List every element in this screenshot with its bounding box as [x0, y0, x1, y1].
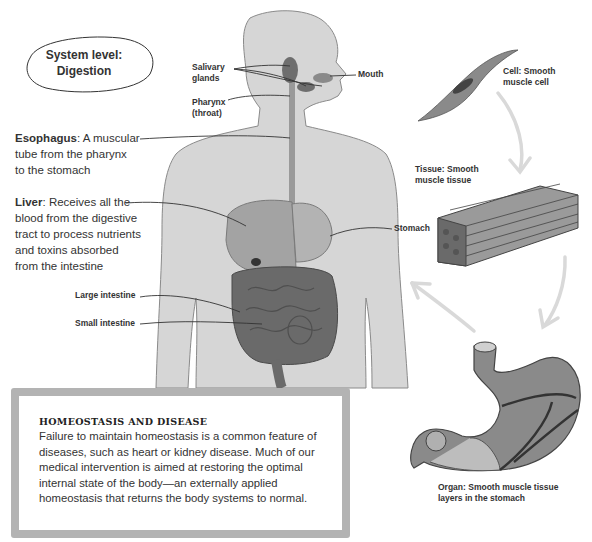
label-cell: Cell: Smooth muscle cell [503, 66, 555, 88]
info-box-title: HOMEOSTASIS AND DISEASE [39, 416, 207, 427]
pharynx-line1: Pharynx [192, 97, 226, 108]
liver-line3: tract to process nutrients [15, 226, 141, 242]
label-large-intestine: Large intestine [75, 290, 135, 301]
stomach-organ-drawing [411, 342, 580, 471]
organ-line1: Organ: Smooth muscle tissue [438, 482, 558, 493]
liver-line5: from the intestine [15, 258, 141, 274]
gallbladder-shape [251, 258, 261, 266]
label-mouth: Mouth [358, 69, 384, 80]
label-salivary-glands: Salivary glands [192, 62, 225, 84]
label-small-intestine: Small intestine [75, 318, 135, 329]
cell-line2: muscle cell [503, 77, 555, 88]
label-stomach: Stomach [394, 223, 430, 234]
esophagus-line2: tube from the pharynx [15, 146, 140, 162]
esophagus-line3: to the stomach [15, 162, 140, 178]
pharynx-line2: (throat) [192, 108, 226, 119]
label-pharynx: Pharynx (throat) [192, 97, 226, 119]
homeostasis-info-box: HOMEOSTASIS AND DISEASE Failure to maint… [11, 388, 350, 538]
arrow-tissue-to-organ [545, 257, 565, 325]
salivary-line1: Salivary [192, 62, 225, 73]
smooth-muscle-tissue-drawing [438, 184, 578, 266]
tissue-line2: muscle tissue [415, 175, 479, 186]
cell-line1: Cell: Smooth [503, 66, 555, 77]
tissue-line1: Tissue: Smooth [415, 164, 479, 175]
label-organ: Organ: Smooth muscle tissue layers in th… [438, 482, 558, 504]
organ-line2: layers in the stomach [438, 493, 558, 504]
liver-description: Liver: Receives all the blood from the d… [15, 194, 141, 274]
salivary-line2: glands [192, 73, 225, 84]
intestines-shape [232, 267, 338, 365]
system-level-label: System level: Digestion [22, 47, 146, 79]
esophagus-term: Esophagus [15, 132, 77, 144]
liver-line2: blood from the digestive [15, 210, 141, 226]
esophagus-description: Esophagus: A muscular tube from the phar… [15, 130, 140, 178]
info-box-body: Failure to maintain homeostasis is a com… [39, 429, 339, 507]
esophagus-line1: : A muscular [77, 132, 140, 144]
liver-line1: : Receives all the [43, 196, 131, 208]
system-level-line2: Digestion [22, 63, 146, 79]
arrow-organ-to-system [412, 283, 474, 331]
liver-line4: and toxins absorbed [15, 242, 141, 258]
system-level-line1: System level: [22, 47, 146, 63]
liver-term: Liver [15, 196, 43, 208]
label-tissue: Tissue: Smooth muscle tissue [415, 164, 479, 186]
rectum-shape [276, 360, 282, 388]
liver-shape [226, 200, 296, 272]
mouth-shape [313, 73, 333, 83]
